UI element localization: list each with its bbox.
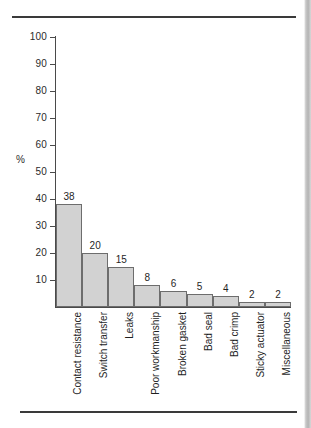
y-axis-title: % [16,155,25,165]
y-tick-label-30: 30 [7,221,47,231]
category-label: Bad crimp [230,312,240,357]
y-tick-label-60: 60 [7,140,47,150]
bar [213,296,239,307]
y-tick-50 [50,172,55,173]
bar [82,253,108,307]
bar [187,294,213,308]
y-tick-100 [50,37,55,38]
y-tick-label-40: 40 [7,194,47,204]
y-tick-label-70: 70 [7,113,47,123]
y-tick-label-10: 10 [7,275,47,285]
y-tick-label-80: 80 [7,86,47,96]
bar-value-label: 6 [160,279,186,289]
y-tick-20 [50,253,55,254]
bar-value-label: 8 [134,273,160,283]
bar [134,285,160,307]
bar-value-label: 2 [239,290,265,300]
bar [160,291,186,307]
x-axis-line [55,307,291,308]
y-tick-label-50: 50 [7,167,47,177]
category-label: Contact resistance [73,312,83,395]
bar-value-label: 5 [187,282,213,292]
bar [239,302,265,307]
bar-value-label: 20 [82,241,108,251]
category-label: Miscellaneous [282,312,292,375]
bar-value-label: 2 [265,290,291,300]
y-tick-label-20: 20 [7,248,47,258]
y-tick-30 [50,226,55,227]
bar-value-label: 15 [108,255,134,265]
category-label: Switch transfer [99,312,109,378]
category-label: Broken gasket [178,312,188,376]
bar [265,302,291,307]
y-tick-label-90: 90 [7,59,47,69]
y-tick-10 [50,280,55,281]
bar-value-label: 4 [213,284,239,294]
bar-value-label: 38 [56,192,82,202]
y-tick-label-100: 100 [7,32,47,42]
y-tick-70 [50,118,55,119]
bar [108,267,134,308]
y-tick-60 [50,145,55,146]
bar-series [56,37,291,307]
bar-chart: 100908070605040302010 % Contact resistan… [0,0,311,428]
y-tick-40 [50,199,55,200]
category-label: Sticky actuator [256,312,266,378]
category-label: Leaks [125,312,135,339]
bar [56,204,82,307]
category-label: Bad seal [204,312,214,351]
category-label: Poor workmanship [151,312,161,395]
y-tick-90 [50,64,55,65]
y-tick-80 [50,91,55,92]
